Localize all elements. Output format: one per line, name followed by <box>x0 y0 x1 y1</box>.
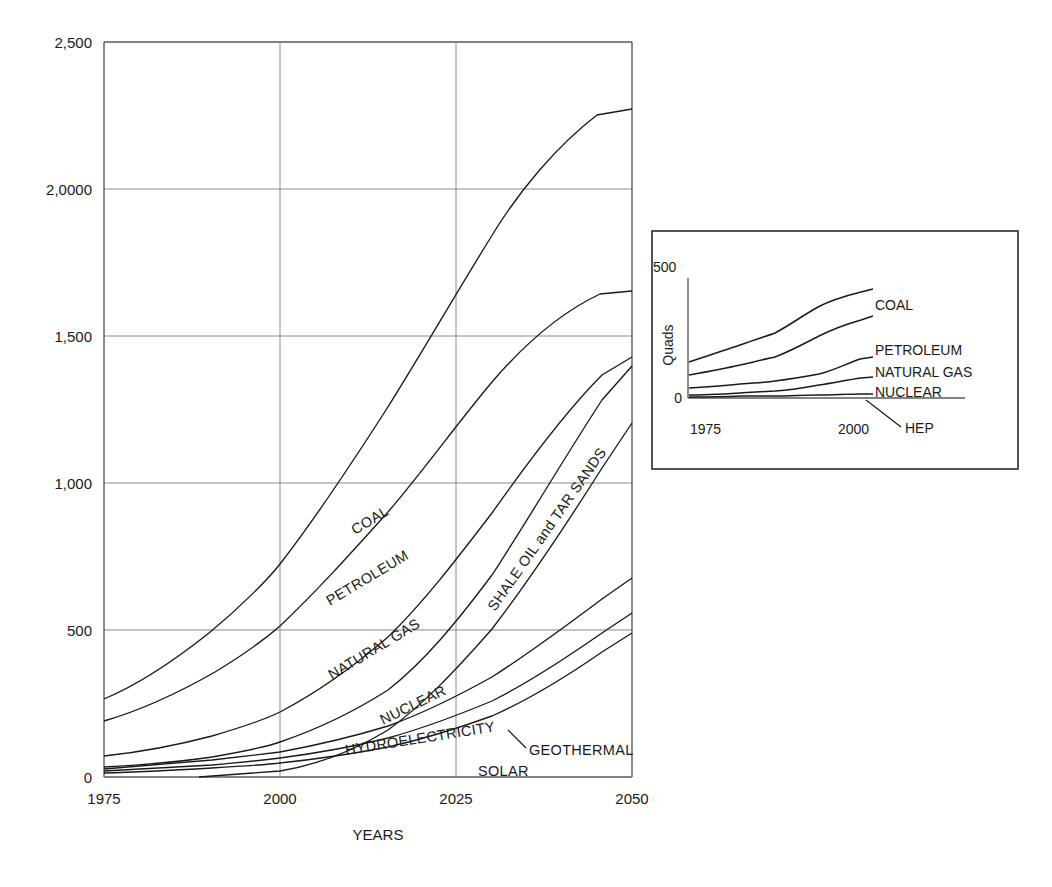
inset-series-label-nuclear: NUCLEAR <box>875 384 942 400</box>
y-tick-label-1500: 1,500 <box>54 328 92 345</box>
series-label-geothermal: GEOTHERMAL <box>529 742 634 758</box>
y-tick-label-2000: 2,0000 <box>46 181 92 198</box>
x-axis-title: YEARS <box>353 826 404 843</box>
inset-x-tick-label-1975: 1975 <box>690 421 721 437</box>
energy-projection-figure: 2,500 2,0000 1,500 1,000 500 0 1975 2000… <box>0 0 1052 887</box>
inset-y-tick-label-0: 0 <box>674 390 682 406</box>
inset-series-label-hep: HEP <box>905 420 934 436</box>
y-tick-label-0: 0 <box>84 769 92 786</box>
figure-canvas: 2,500 2,0000 1,500 1,000 500 0 1975 2000… <box>0 0 1052 887</box>
inset-series-label-coal: COAL <box>875 297 913 313</box>
x-tick-label-2025: 2025 <box>439 790 472 807</box>
x-tick-label-2050: 2050 <box>615 790 648 807</box>
x-tick-label-1975: 1975 <box>87 790 120 807</box>
figure-background <box>0 0 1052 887</box>
inset-y-tick-label-500: 500 <box>653 259 677 275</box>
y-tick-label-2500: 2,500 <box>54 34 92 51</box>
inset-series-label-natural-gas: NATURAL GAS <box>875 364 972 380</box>
x-tick-label-2000: 2000 <box>263 790 296 807</box>
inset-series-label-petroleum: PETROLEUM <box>875 342 962 358</box>
inset-y-axis-title: Quads <box>660 324 676 365</box>
series-label-solar: SOLAR <box>478 763 529 779</box>
y-tick-label-1000: 1,000 <box>54 475 92 492</box>
y-tick-label-500: 500 <box>67 622 92 639</box>
inset-x-tick-label-2000: 2000 <box>838 421 869 437</box>
